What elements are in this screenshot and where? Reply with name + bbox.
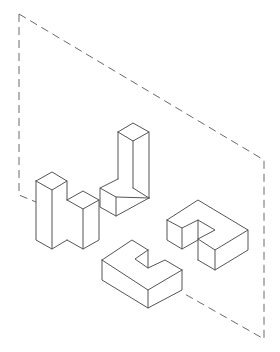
block-face bbox=[52, 181, 67, 249]
diagram-canvas bbox=[0, 0, 280, 352]
plane-left-edge bbox=[19, 14, 36, 202]
isometric-diagram bbox=[0, 0, 280, 352]
block-shapes bbox=[36, 123, 248, 308]
L-block-tall bbox=[100, 123, 149, 216]
block-face bbox=[118, 132, 133, 188]
L-block-left bbox=[36, 172, 99, 249]
C-block bbox=[102, 240, 182, 308]
block-face bbox=[36, 181, 52, 249]
G-block bbox=[167, 200, 248, 270]
